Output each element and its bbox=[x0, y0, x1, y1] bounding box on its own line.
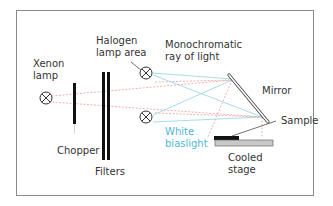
sample-leader-line bbox=[232, 121, 276, 136]
cooled-stage-icon bbox=[215, 140, 273, 146]
optical-setup-diagram bbox=[0, 0, 333, 206]
chopper-label: Chopper bbox=[57, 145, 99, 157]
filters-icon bbox=[102, 72, 110, 160]
halogen-leader-line bbox=[131, 62, 141, 70]
xenon-lamp-label: Xenon lamp bbox=[33, 58, 64, 82]
halogen-lamp-bottom-icon bbox=[140, 111, 152, 123]
white-biaslight-label: White biaslight bbox=[165, 126, 208, 150]
halogen-lamp-top-icon bbox=[140, 67, 152, 79]
monochromatic-rays bbox=[52, 80, 262, 137]
xenon-lamp-icon bbox=[40, 92, 52, 104]
chopper-icon bbox=[73, 83, 76, 134]
cooled-stage-label: Cooled stage bbox=[228, 152, 263, 176]
monochromatic-ray-label: Monochromatic ray of light bbox=[165, 39, 242, 63]
halogen-lamp-area-label: Halogen lamp area bbox=[96, 35, 146, 59]
filters-label: Filters bbox=[95, 166, 125, 178]
sample-label: Sample bbox=[281, 115, 319, 127]
mirror-label: Mirror bbox=[262, 85, 291, 97]
